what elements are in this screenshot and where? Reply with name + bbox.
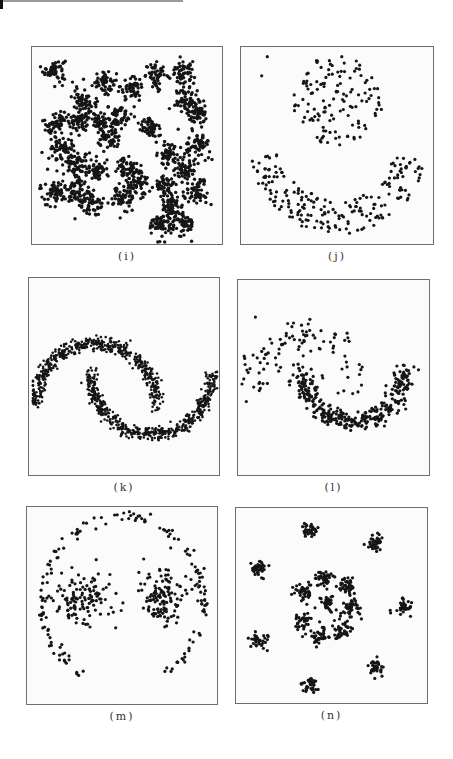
panel-caption: (l) xyxy=(237,481,430,494)
scatter-plot xyxy=(236,508,429,705)
plot-frame xyxy=(240,46,434,245)
page-top-rule xyxy=(3,0,183,2)
scatter-plot xyxy=(32,47,224,246)
scatter-plot xyxy=(29,278,221,477)
plot-frame xyxy=(28,277,220,476)
scatter-plot xyxy=(27,507,219,706)
scatter-plot xyxy=(238,280,431,477)
scatter-plot xyxy=(241,47,435,246)
panel-caption: (k) xyxy=(28,481,220,494)
plot-frame xyxy=(237,279,430,476)
panel-caption: (j) xyxy=(240,250,434,263)
panel-caption: (i) xyxy=(31,250,223,263)
plot-frame xyxy=(235,507,428,704)
plot-frame xyxy=(31,46,223,245)
panel-caption: (m) xyxy=(26,710,218,723)
plot-frame xyxy=(26,506,218,705)
panel-caption: (n) xyxy=(235,709,428,722)
